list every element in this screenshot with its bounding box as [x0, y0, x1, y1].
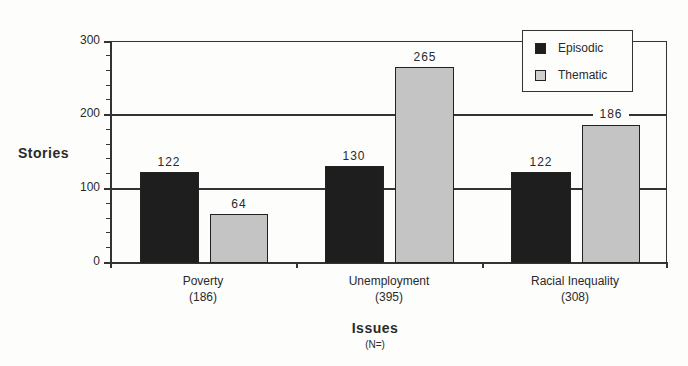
y-tick	[104, 188, 112, 190]
y-minor-tick	[106, 99, 111, 100]
x-tick	[666, 262, 668, 268]
bar-value-label: 64	[209, 197, 269, 211]
y-minor-tick	[106, 173, 111, 174]
y-minor-tick	[106, 55, 111, 56]
legend-item-episodic: Episodic	[535, 41, 603, 55]
y-minor-tick	[106, 158, 111, 159]
bar-unemployment-thematic	[395, 67, 454, 263]
x-tick	[482, 262, 484, 268]
y-minor-tick	[106, 85, 111, 86]
x-tick	[296, 262, 298, 268]
y-minor-tick	[106, 70, 111, 71]
bar-racial-inequality-episodic	[511, 172, 571, 263]
bar-racial-inequality-thematic	[582, 125, 640, 263]
bar-poverty-thematic	[210, 214, 268, 263]
y-minor-tick	[106, 232, 111, 233]
bar-value-label: 265	[395, 50, 455, 64]
category-total: (395)	[296, 289, 482, 305]
y-tick-label: 200	[60, 106, 100, 120]
category-total: (308)	[482, 289, 668, 305]
bar-unemployment-episodic	[325, 166, 384, 263]
category-name: Racial Inequality	[482, 273, 668, 289]
category-label: Poverty (186)	[110, 273, 296, 305]
y-tick	[104, 114, 112, 116]
y-tick-label: 0	[60, 254, 100, 268]
y-tick	[104, 41, 112, 43]
y-tick-label: 100	[60, 180, 100, 194]
y-minor-tick	[106, 144, 111, 145]
bar-value-label: 122	[139, 155, 199, 169]
y-axis-title: Stories	[18, 145, 69, 161]
legend-swatch-episodic	[535, 43, 546, 54]
x-tick	[110, 262, 112, 268]
y-tick-label: 300	[60, 33, 100, 47]
category-name: Poverty	[110, 273, 296, 289]
x-axis-subtitle: (N=)	[300, 339, 450, 350]
category-name: Unemployment	[296, 273, 482, 289]
y-minor-tick	[106, 129, 111, 130]
y-minor-tick	[106, 247, 111, 248]
y-minor-tick	[106, 218, 111, 219]
category-label: Racial Inequality (308)	[482, 273, 668, 305]
bar-value-label: 122	[511, 155, 571, 169]
legend-swatch-thematic	[535, 70, 546, 81]
legend-label: Thematic	[558, 68, 607, 82]
x-axis-title: Issues	[300, 320, 450, 336]
bar-value-label: 186	[593, 107, 629, 121]
category-total: (186)	[110, 289, 296, 305]
bar-poverty-episodic	[140, 172, 199, 263]
bar-value-label: 130	[324, 149, 384, 163]
gridline-200	[110, 114, 667, 116]
legend-item-thematic: Thematic	[535, 68, 607, 82]
y-minor-tick	[106, 203, 111, 204]
legend: Episodic Thematic	[522, 30, 633, 92]
category-label: Unemployment (395)	[296, 273, 482, 305]
legend-label: Episodic	[558, 41, 603, 55]
